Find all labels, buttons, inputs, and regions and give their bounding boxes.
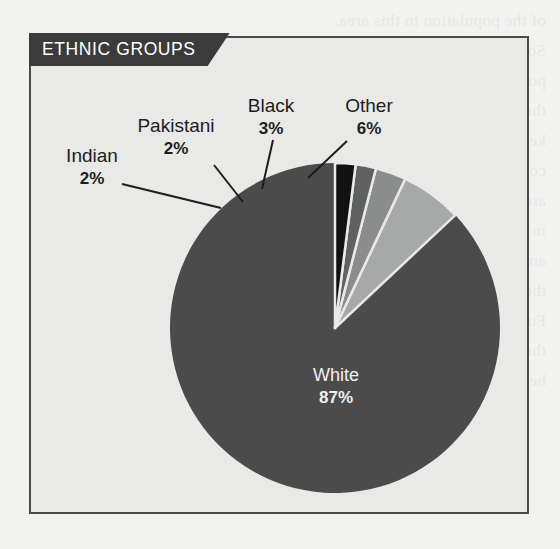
page-title: ETHNIC GROUPS: [42, 39, 196, 60]
pie-callout-other: Other 6%: [330, 96, 408, 138]
pie-callout-indian: Indian 2%: [46, 146, 138, 188]
pie-inner-label-white-value: 87%: [290, 389, 382, 408]
pie-chart-svg: [0, 0, 560, 549]
pie-callout-other-value: 6%: [330, 120, 408, 138]
leader-line-pakistani: [214, 165, 243, 202]
pie-chart: Indian 2% Pakistani 2% Black 3% Other 6%…: [0, 0, 560, 549]
pie-callout-black: Black 3%: [232, 96, 310, 138]
pie-callout-pakistani-value: 2%: [128, 140, 224, 158]
pie-slice-group: [170, 163, 500, 493]
chart-title-banner: ETHNIC GROUPS: [29, 33, 230, 66]
pie-callout-pakistani-label: Pakistani: [128, 116, 224, 137]
pie-inner-label-white: White 87%: [290, 366, 382, 407]
pie-inner-label-white-label: White: [290, 366, 382, 386]
pie-callout-other-label: Other: [330, 96, 408, 117]
pie-callout-indian-value: 2%: [46, 170, 138, 188]
pie-callout-black-value: 3%: [232, 120, 310, 138]
pie-callout-pakistani: Pakistani 2%: [128, 116, 224, 158]
pie-callout-indian-label: Indian: [46, 146, 138, 167]
pie-callout-black-label: Black: [232, 96, 310, 117]
